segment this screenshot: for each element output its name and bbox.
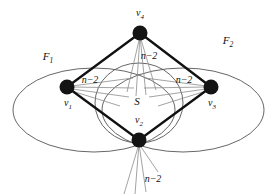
edge-v1-v2	[67, 87, 139, 140]
vertex-v1	[60, 80, 75, 95]
region-label-f2: F2	[223, 35, 233, 49]
region-label-f1: F1	[43, 51, 53, 65]
vertex-label-v4: v4	[136, 8, 144, 21]
edge-v3-v2	[139, 87, 211, 140]
fan-count-label-v2: n−2	[145, 174, 162, 184]
vertex-v3	[204, 80, 219, 95]
fan-lines-v2	[124, 144, 158, 194]
fan-count-label-v1: n−2	[82, 75, 99, 85]
vertex-v2	[132, 133, 147, 148]
fan-count-label-v3: n−2	[176, 75, 193, 85]
fan-lines-v4	[127, 36, 156, 96]
vertex-v4	[133, 26, 148, 41]
graph-figure: v4 v1 v3 v2 F1 F2 S n−2 n−2 n−2 n−2	[0, 0, 277, 194]
vertex-label-v3: v3	[208, 98, 216, 111]
fan-count-label-v4: n−2	[141, 51, 158, 61]
region-label-s: S	[134, 96, 140, 107]
vertex-label-v2: v2	[135, 115, 143, 128]
vertex-label-v1: v1	[64, 98, 72, 111]
